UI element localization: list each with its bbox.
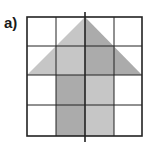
symmetry-diagram [0,0,147,145]
